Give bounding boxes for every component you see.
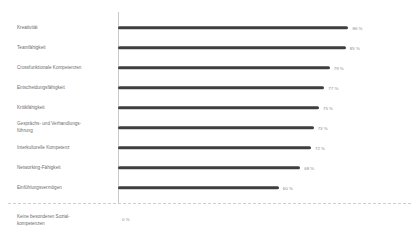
bar-chart: Kreativität 86 % Teamfähigkeit 85 % Cros… [0, 0, 419, 250]
bar [118, 86, 324, 89]
table-row: Kreativität 86 % [0, 18, 419, 38]
bar-rows: Kreativität 86 % Teamfähigkeit 85 % Cros… [0, 18, 419, 198]
bar-value-label: 85 % [350, 46, 360, 51]
bar-value-label: 77 % [328, 86, 338, 91]
bar-track: 85 % [118, 38, 411, 58]
bar-value-label: 60 % [283, 186, 293, 191]
category-label: Kritikfähigkeit [17, 105, 115, 112]
table-row: Einfühlungsvermögen 60 % [0, 178, 419, 198]
bar [118, 26, 348, 29]
table-row: Gesprächs- und Verhandlungs- führung 73 … [0, 118, 419, 138]
category-label: Gesprächs- und Verhandlungs- führung [17, 121, 115, 134]
bar-value-label: 75 % [323, 106, 333, 111]
category-label: Teamfähigkeit [17, 45, 115, 52]
bar [118, 106, 319, 109]
bar [118, 46, 346, 49]
table-row: Crossfunktionale Kompetenzen 79 % [0, 58, 419, 78]
plot-area: Kreativität 86 % Teamfähigkeit 85 % Cros… [0, 0, 419, 250]
bar-track: 75 % [118, 98, 411, 118]
table-row: Interkulturelle Kompetenz 72 % [0, 138, 419, 158]
bar [118, 166, 300, 169]
zero-value-row: Keine besonderen Sozial- kompetenzen 0 % [0, 207, 419, 241]
bar-value-label: 68 % [304, 166, 314, 171]
bar [118, 66, 330, 69]
category-label: Einfühlungsvermögen [17, 185, 115, 192]
bar-value-label: 79 % [334, 66, 344, 71]
bar-value-label: 72 % [315, 146, 325, 151]
table-row: Entscheidungsfähigkeit 77 % [0, 78, 419, 98]
category-label: Entscheidungsfähigkeit [17, 85, 115, 92]
category-label: Keine besonderen Sozial- kompetenzen [17, 214, 115, 227]
bar-track: 68 % [118, 158, 411, 178]
bar-value-label: 0 % [122, 217, 130, 222]
bar-value-label: 73 % [318, 126, 328, 131]
category-label: Kreativität [17, 25, 115, 32]
category-label: Interkulturelle Kompetenz [17, 145, 115, 152]
bar-track: 60 % [118, 178, 411, 198]
section-divider [8, 203, 411, 204]
category-label: Networking-Fähigkeit [17, 165, 115, 172]
bar-track: 79 % [118, 58, 411, 78]
bar [118, 146, 311, 149]
bar [118, 126, 314, 129]
category-label: Crossfunktionale Kompetenzen [17, 65, 115, 72]
table-row: Kritikfähigkeit 75 % [0, 98, 419, 118]
bar-value-label: 86 % [352, 26, 362, 31]
bar-track: 72 % [118, 138, 411, 158]
bar-track: 77 % [118, 78, 411, 98]
bar-track: 86 % [118, 18, 411, 38]
table-row: Teamfähigkeit 85 % [0, 38, 419, 58]
bar-track: 73 % [118, 118, 411, 138]
bar [118, 186, 279, 189]
table-row: Networking-Fähigkeit 68 % [0, 158, 419, 178]
